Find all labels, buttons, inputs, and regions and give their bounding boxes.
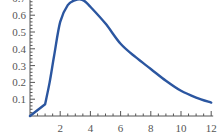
tick-labels: 246810120.10.20.30.40.50.60.7 (12, 0, 216, 134)
x-tick-label: 12 (206, 122, 217, 134)
data-line (30, 0, 211, 116)
y-tick-label: 0.7 (12, 0, 26, 4)
x-tick-label: 4 (88, 122, 94, 134)
ticks (30, 0, 211, 116)
line-chart: 246810120.10.20.30.40.50.60.7 (0, 0, 217, 135)
y-tick-label: 0.6 (12, 9, 26, 21)
x-tick-label: 10 (176, 122, 188, 134)
y-tick-label: 0.3 (12, 60, 26, 72)
y-tick-label: 0.4 (12, 43, 26, 55)
y-tick-label: 0.2 (12, 76, 26, 88)
axes (30, 0, 213, 116)
x-tick-label: 8 (148, 122, 154, 134)
y-tick-label: 0.1 (12, 93, 26, 105)
x-tick-label: 2 (57, 122, 63, 134)
y-tick-label: 0.5 (12, 26, 26, 38)
x-tick-label: 6 (118, 122, 124, 134)
